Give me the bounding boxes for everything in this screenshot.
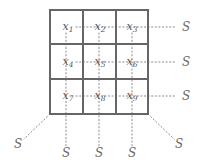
cell-sub-x2: 2	[101, 25, 106, 34]
s-label-bottom-col2: S	[95, 146, 103, 160]
s-label-right-row3: S	[182, 89, 190, 103]
cell-sub-x9: 9	[133, 94, 138, 103]
cell-label-x5: x5	[95, 55, 106, 69]
dotted-bottom-left-diagonal	[24, 114, 50, 139]
cell-label-x2: x2	[95, 20, 106, 34]
dotted-bottom-right-diagonal	[148, 114, 174, 139]
cell-sub-x8: 8	[101, 94, 106, 103]
cell-label-x3: x3	[127, 20, 138, 34]
cell-label-x7: x7	[63, 89, 74, 103]
s-label-bottom-right-diagonal: S	[175, 137, 183, 151]
cell-sub-x3: 3	[133, 25, 138, 34]
cell-label-x9: x9	[127, 89, 138, 103]
s-label-right-row2: S	[182, 55, 190, 69]
s-label-bottom-left-diagonal: S	[14, 137, 22, 151]
cell-sub-x7: 7	[69, 94, 74, 103]
cell-label-x6: x6	[127, 55, 138, 69]
s-label-bottom-col3: S	[128, 146, 136, 160]
cell-sub-x4: 4	[69, 60, 74, 69]
cell-sub-x5: 5	[101, 60, 106, 69]
cell-sub-x6: 6	[133, 60, 138, 69]
grid-diagram: x1 x2 x3 x4 x5 x6 x7 x8 x9 S S S S S S S…	[0, 0, 201, 167]
cell-label-x1: x1	[63, 20, 74, 34]
s-label-right-row1: S	[182, 20, 190, 34]
cell-label-x4: x4	[63, 55, 74, 69]
s-label-bottom-col1: S	[62, 146, 70, 160]
cell-label-x8: x8	[95, 89, 106, 103]
cell-sub-x1: 1	[69, 25, 74, 34]
